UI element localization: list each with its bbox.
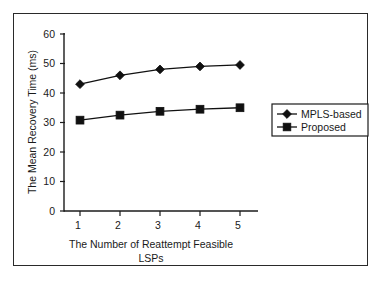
y-tick-label: 30: [43, 116, 55, 128]
legend-label: MPLS-based: [301, 108, 362, 120]
x-axis-title-line1: The Number of Reattempt Feasible: [69, 238, 233, 250]
series-layer: [76, 61, 245, 124]
square-marker-icon: [196, 105, 204, 113]
y-tick-label: 60: [43, 28, 55, 40]
diamond-marker-icon: [156, 65, 165, 74]
y-tick-label: 40: [43, 87, 55, 99]
x-tick-marks: [80, 211, 240, 216]
x-tick-labels: 1 2 3 4 5: [75, 219, 241, 231]
x-axis-title-line2: LSPs: [138, 252, 163, 264]
series-proposed: [76, 104, 244, 124]
x-tick-label: 1: [75, 219, 81, 231]
legend[interactable]: MPLS-based Proposed: [272, 104, 368, 136]
square-marker-icon: [283, 123, 291, 131]
y-tick-label: 0: [49, 205, 55, 217]
y-axis-title: The Mean Recovery Time (ms): [26, 50, 38, 194]
legend-label: Proposed: [301, 121, 346, 133]
series-mpls-based: [76, 61, 245, 89]
y-tick-labels: 60 50 40 30 20 10 0: [43, 28, 55, 217]
x-tick-label: 2: [115, 219, 121, 231]
diamond-marker-icon: [236, 61, 245, 70]
square-marker-icon: [156, 107, 164, 115]
x-tick-label: 3: [155, 219, 161, 231]
diamond-marker-icon: [116, 71, 125, 80]
x-tick-label: 5: [235, 219, 241, 231]
square-marker-icon: [236, 104, 244, 112]
diamond-marker-icon: [196, 62, 205, 71]
figure-canvas: The Mean Recovery Time (ms) 60 50 40 30 …: [0, 0, 383, 282]
x-tick-label: 4: [195, 219, 201, 231]
axis-lines: [64, 33, 258, 211]
diamond-marker-icon: [76, 80, 85, 89]
y-tick-label: 50: [43, 57, 55, 69]
square-marker-icon: [76, 116, 84, 124]
chart-plot: The Mean Recovery Time (ms) 60 50 40 30 …: [0, 0, 383, 282]
y-tick-label: 10: [43, 175, 55, 187]
y-tick-label: 20: [43, 146, 55, 158]
square-marker-icon: [116, 111, 124, 119]
